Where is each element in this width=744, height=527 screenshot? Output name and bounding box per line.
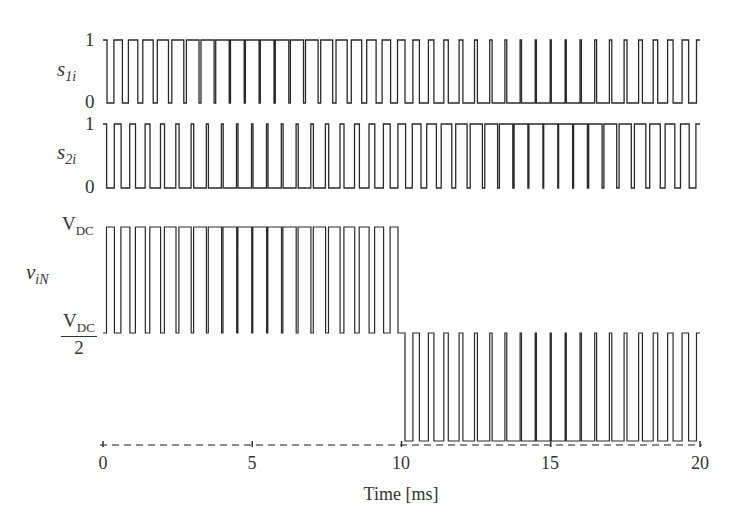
vin-label-sub: iN [35,272,48,287]
vdc-sub: DC [76,223,94,238]
vdc-half-num-main: V [63,310,77,331]
vin-trace [103,227,700,441]
s2i-trace [103,124,700,188]
s1i-label-main: s [57,57,65,81]
x-tick-20: 20 [691,453,709,474]
s2i-label-main: s [57,140,65,164]
x-tick-5: 5 [248,453,257,474]
vdc-main: V [62,213,76,234]
x-axis-label: Time [ms] [364,484,439,505]
s1-ytick-0: 0 [85,91,95,113]
x-tick-marks [103,441,700,447]
vdc-half-den: 2 [61,337,97,359]
x-tick-0: 0 [99,453,108,474]
vdc-half-num-sub: DC [77,320,95,335]
s1-ytick-1: 1 [85,29,95,51]
s1i-label-sub: 1i [65,69,76,84]
waveform-plot [0,0,744,527]
s1i-label: s1i [57,57,76,85]
vdc-tick-label: VDC [62,213,94,239]
s2i-label-sub: 2i [65,152,76,167]
s2-ytick-1: 1 [85,113,95,135]
s2i-label: s2i [57,140,76,168]
s2-ytick-0: 0 [85,176,95,198]
vdc-half-tick-label: VDC 2 [61,310,97,359]
vin-label-main: v [26,260,35,284]
x-tick-10: 10 [392,453,410,474]
x-tick-15: 15 [541,453,559,474]
s1i-trace [103,40,700,103]
vin-label: viN [26,260,49,288]
